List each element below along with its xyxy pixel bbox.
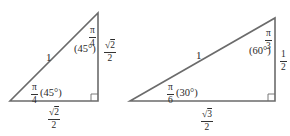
right-vertical-side-label: 1 2 bbox=[280, 50, 287, 72]
left-bottom-angle-den: 4 bbox=[32, 95, 37, 106]
right-vertical-side-den: 2 bbox=[281, 62, 286, 73]
left-bottom-angle-num: π bbox=[31, 83, 38, 95]
right-vertical-side-num: 1 bbox=[280, 50, 287, 62]
left-horizontal-side-den: 2 bbox=[52, 120, 57, 131]
right-bottom-angle-den: 6 bbox=[168, 95, 173, 106]
right-bottom-angle-fraction: π 6 bbox=[167, 83, 174, 105]
left-horizontal-side-label: √2 2 bbox=[48, 108, 60, 130]
triangles-drawing bbox=[0, 0, 290, 136]
right-bottom-angle-degrees: (30°) bbox=[176, 88, 198, 99]
right-hypotenuse-label: 1 bbox=[196, 50, 202, 61]
left-top-angle-degrees: (45°) bbox=[74, 44, 96, 55]
right-top-angle-degrees: (60°) bbox=[249, 46, 271, 57]
left-bottom-angle-degrees: (45°) bbox=[40, 88, 62, 99]
left-vertical-side-num: √2 bbox=[104, 41, 116, 53]
right-right-angle-marker bbox=[268, 94, 275, 101]
left-horizontal-side-num: √2 bbox=[48, 108, 60, 120]
right-horizontal-side-label: √3 2 bbox=[201, 110, 213, 132]
left-top-angle-num: π bbox=[89, 26, 96, 38]
right-bottom-angle-num: π bbox=[167, 83, 174, 95]
left-right-angle-marker bbox=[91, 94, 98, 101]
left-vertical-side-label: √2 2 bbox=[104, 41, 116, 63]
right-horizontal-side-den: 2 bbox=[205, 122, 210, 133]
right-triangle bbox=[130, 18, 275, 101]
left-bottom-angle-fraction: π 4 bbox=[31, 83, 38, 105]
left-vertical-side-den: 2 bbox=[108, 53, 113, 64]
right-horizontal-side-num: √3 bbox=[201, 110, 213, 122]
right-top-angle-num: π bbox=[265, 29, 272, 41]
left-hypotenuse-label: 1 bbox=[46, 52, 52, 63]
